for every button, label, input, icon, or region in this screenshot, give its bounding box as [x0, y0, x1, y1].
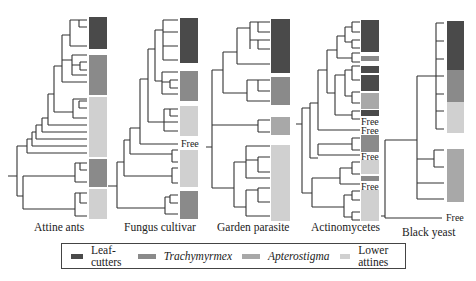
clade-bar-trachymyrmex: [180, 191, 198, 219]
clade-bar-trachymyrmex: [180, 71, 198, 101]
clade-bar-leaf-cutters: [271, 19, 290, 73]
clade-bar-trachymyrmex: [89, 55, 107, 95]
clade-bar-lower-attines: [361, 190, 379, 221]
clade-bar-lower-attines: [271, 145, 290, 221]
tree-panel-1: [108, 18, 198, 219]
panel-label-attine-ants: Attine ants: [34, 221, 84, 233]
clade-bar-apterostigma: [447, 149, 464, 202]
legend-item-apterostigma: Apterostigma: [242, 250, 330, 262]
legend-item-leaf-cutters: Leaf-cutters: [71, 244, 128, 268]
clade-bar-leaf-cutters: [180, 18, 198, 63]
clade-bar-trachymyrmex: [361, 56, 379, 61]
clade-bar-trachymyrmex: [447, 70, 464, 102]
legend-label: Trachymyrmex: [164, 250, 232, 262]
tree-panel-4: [381, 21, 464, 218]
legend-swatch-lower-attines: [340, 254, 351, 259]
tree-branches: [296, 22, 360, 220]
clade-bar-lower-attines: [89, 97, 107, 157]
tree-panel-0: [8, 17, 107, 219]
tree-branches: [206, 22, 270, 216]
tree-panel-2: [206, 19, 290, 221]
panel-label-black-yeast: Black yeast: [402, 226, 455, 238]
clade-bar-lower-attines: [89, 189, 107, 219]
clade-bar-leaf-cutters: [361, 75, 379, 91]
legend-swatch-apterostigma: [242, 254, 260, 259]
legend-item-trachymyrmex: Trachymyrmex: [138, 250, 232, 262]
legend-swatch-trachymyrmex: [138, 254, 156, 259]
legend-item-lower-attines: Lower attines: [340, 244, 396, 268]
clade-bar-leaf-cutters: [361, 66, 379, 73]
clade-bar-trachymyrmex: [89, 159, 107, 187]
clade-bar-trachymyrmex: [361, 135, 379, 152]
free-living-label: Free: [446, 213, 464, 223]
clade-bar-leaf-cutters: [89, 17, 107, 49]
tree-branches: [8, 20, 87, 216]
legend-label: Lower attines: [358, 244, 395, 268]
tree-branches: [381, 23, 444, 218]
free-living-label: Free: [361, 182, 379, 192]
clade-bar-apterostigma: [271, 117, 290, 135]
clade-bar-lower-attines: [180, 150, 198, 187]
free-living-label: Free: [181, 139, 199, 149]
panel-label-actinomycetes: Actinomycetes: [311, 221, 380, 233]
clade-bar-apterostigma: [361, 93, 379, 109]
tree-branches: [108, 20, 178, 214]
legend: Leaf-cutters Trachymyrmex Apterostigma L…: [61, 243, 406, 269]
clade-bar-lower-attines: [361, 160, 379, 174]
clade-bar-trachymyrmex: [271, 77, 290, 105]
free-living-label: Free: [361, 126, 379, 136]
legend-swatch-leaf-cutters: [71, 254, 83, 259]
legend-label: Apterostigma: [268, 250, 330, 262]
panel-label-garden-parasite: Garden parasite: [217, 221, 289, 233]
clade-bar-lower-attines: [180, 106, 198, 136]
free-living-label: Free: [361, 152, 379, 162]
phylogeny-figure: [0, 0, 476, 281]
panel-label-fungus-cultivar: Fungus cultivar: [124, 221, 196, 233]
clade-bar-leaf-cutters: [361, 20, 379, 52]
legend-label: Leaf-cutters: [91, 244, 128, 268]
clade-bar-lower-attines: [447, 102, 464, 133]
clade-bar-leaf-cutters: [447, 21, 464, 70]
